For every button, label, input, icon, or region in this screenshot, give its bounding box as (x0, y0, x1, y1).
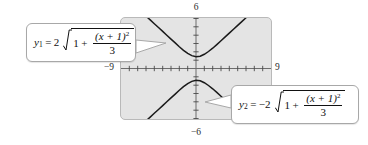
y1-fraction: (x + 1)2 3 (93, 31, 131, 56)
y2-plus: + (293, 100, 299, 111)
y1-plus: + (81, 38, 87, 49)
y2-coefficient: −2 (259, 99, 271, 110)
axis-label-ymax: 6 (194, 3, 199, 13)
y2-radicand: 1 + (x + 1)2 3 (283, 90, 346, 119)
y2-numerator-group: (x + 1)2 (304, 93, 342, 105)
y1-radicand-lead: 1 (73, 38, 79, 49)
y1-numerator-exponent: 2 (126, 30, 130, 38)
y1-coefficient: 2 (54, 37, 60, 48)
graph-figure: 6 −6 −9 9 y1 = 2 1 + (x + 1)2 3 (0, 0, 368, 145)
y2-denominator: 3 (304, 105, 342, 118)
callout-tail-y2 (205, 95, 231, 108)
y1-equals: = (45, 37, 51, 48)
y2-radicand-lead: 1 (285, 100, 291, 111)
y1-subscript: 1 (39, 41, 43, 49)
y2-numerator: (x + 1) (306, 92, 337, 104)
equation-y2: y2 = −2 1 + (x + 1)2 3 (239, 90, 345, 119)
y1-numerator: (x + 1) (95, 30, 126, 42)
y1-radical: 1 + (x + 1)2 3 (63, 28, 134, 57)
equation-y1: y1 = 2 1 + (x + 1)2 3 (34, 28, 134, 57)
radical-sign-icon (63, 28, 72, 57)
axis-label-xmin: −9 (104, 63, 114, 73)
y2-fraction: (x + 1)2 3 (304, 93, 342, 118)
y2-equals: = (250, 99, 256, 110)
callout-tail-y1 (136, 40, 166, 53)
y1-denominator: 3 (93, 43, 131, 56)
y1-radicand: 1 + (x + 1)2 3 (71, 28, 134, 57)
radical-sign-icon (275, 90, 284, 119)
callout-label-y1: y1 = 2 1 + (x + 1)2 3 (26, 23, 136, 62)
axis-label-xmax: 9 (275, 63, 280, 73)
y2-subscript: 2 (244, 103, 248, 111)
axis-label-ymin: −6 (191, 128, 201, 138)
callout-label-y2: y2 = −2 1 + (x + 1)2 3 (231, 85, 359, 124)
y2-numerator-exponent: 2 (337, 92, 341, 100)
y1-numerator-group: (x + 1)2 (93, 31, 131, 43)
y2-radical: 1 + (x + 1)2 3 (275, 90, 346, 119)
